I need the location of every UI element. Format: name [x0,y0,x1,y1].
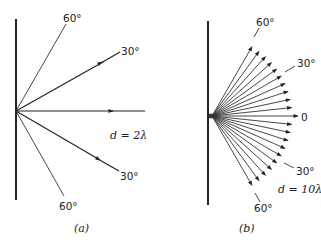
spacing-label-b: d = 10λ [278,183,321,196]
angle-label-30-bottom-b: 30° [296,165,315,177]
beam-arrow [212,51,259,116]
spacing-label-a: d = 2λ [110,129,147,142]
angle-label-60-top-b: 60° [256,16,275,28]
beam-line-60-up [16,24,66,111]
angle-label-60-bottom-a: 60° [59,200,78,212]
beam-arrow [212,47,252,116]
angle-label-0-b: 0 [301,111,308,123]
beam-arrow-30-down [16,111,100,160]
beam-line-60-down [16,111,64,196]
caption-b: (b) [239,222,255,235]
aperture-source [209,114,214,119]
caption-a: (a) [74,222,89,235]
panel-b: 60° 30° 0 30° d = 10λ 60° (b) [208,16,321,235]
angle-label-30-top-b: 30° [297,57,316,69]
leader-30-bottom-b [284,163,294,168]
beam-arrow [212,116,285,149]
beam-line-30-down-ext [97,159,119,172]
beam-arrow-30-up [16,62,103,111]
angle-label-60-bottom-b: 60° [254,202,273,214]
leader-30-top-b [285,66,295,72]
panel-a: 60° 30° d = 2λ 30° 60° (a) [16,12,147,235]
beam-arrow [212,116,259,181]
angle-label-30-bottom-a: 30° [120,170,139,182]
angle-label-60-top-a: 60° [63,12,82,24]
beam-line-30-up-ext [100,52,120,64]
beam-arrow [212,84,285,117]
angle-label-30-top-a: 30° [121,45,140,57]
beam-arrow [212,63,272,117]
beams-b [209,47,299,186]
leader-60-top-b [254,28,259,37]
beam-arrow [212,116,252,185]
diffraction-figure: 60° 30° d = 2λ 30° 60° (a) 60° 30° 0 30°… [0,0,321,246]
beam-arrow [212,116,272,170]
leader-60-bottom-b [255,193,260,202]
